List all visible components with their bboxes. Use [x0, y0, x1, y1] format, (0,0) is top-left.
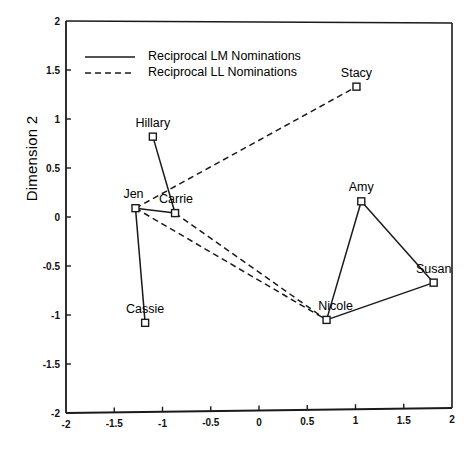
- x-tick-label: -2: [62, 419, 71, 430]
- x-tick-label: -1.5: [106, 418, 123, 429]
- plot-frame: [66, 21, 452, 413]
- y-tick-label: 2: [34, 16, 60, 27]
- legend-entry-label: Reciprocal LL Nominations: [148, 65, 297, 79]
- y-tick-label: -1: [34, 310, 60, 321]
- y-tick-label: 1: [34, 114, 60, 125]
- axis-ticks: [66, 70, 404, 412]
- point-label: Cassie: [126, 302, 164, 316]
- point-label: Stacy: [341, 66, 372, 80]
- y-tick-label: 0: [34, 212, 60, 223]
- x-tick-label: 1.5: [397, 415, 411, 426]
- scatter-plot-figure: Dimension 2 -2-1.5-1-0.500.511.52-2-1.5-…: [0, 0, 475, 476]
- legend-entry-label: Reciprocal LM Nominations: [148, 49, 301, 63]
- point-label: Amy: [349, 180, 374, 194]
- x-tick-label: 2: [449, 414, 455, 425]
- x-tick-label: -0.5: [202, 417, 219, 428]
- x-tick-label: 1: [353, 415, 359, 426]
- y-tick-label: -2: [34, 408, 60, 419]
- y-tick-label: -1.5: [34, 359, 60, 370]
- y-tick-label: -0.5: [34, 261, 60, 272]
- point-label: Hillary: [135, 116, 170, 130]
- legend-sample-lines: [85, 57, 135, 73]
- x-tick-label: 0: [256, 417, 262, 428]
- x-tick-label: 0.5: [300, 416, 314, 427]
- x-tick-label: -1: [158, 418, 167, 429]
- y-tick-label: 0.5: [34, 163, 60, 174]
- point-label: Jen: [123, 187, 143, 201]
- point-label: Nicole: [318, 299, 353, 313]
- y-tick-label: 1.5: [34, 65, 60, 76]
- point-label: Susan: [416, 262, 451, 276]
- point-label: Carrie: [159, 192, 193, 206]
